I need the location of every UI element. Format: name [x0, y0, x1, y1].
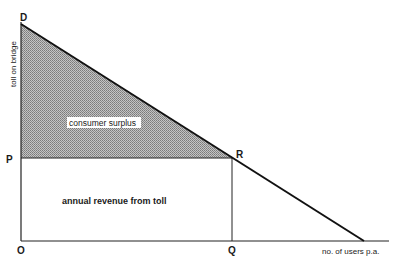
point-o-label: O: [17, 245, 25, 256]
consumer-surplus-label: consumer surplus: [69, 118, 136, 128]
y-axis-label: toll on bridge: [9, 41, 18, 87]
x-axis-label: no. of users p.a.: [322, 247, 379, 256]
point-p-label: P: [6, 154, 13, 165]
annual-revenue-label: annual revenue from toll: [62, 196, 167, 206]
point-d-label: D: [20, 12, 27, 23]
diagram: D P R O Q toll on bridge no. of users p.…: [0, 0, 398, 264]
point-r-label: R: [236, 149, 244, 160]
point-q-label: Q: [228, 245, 236, 256]
